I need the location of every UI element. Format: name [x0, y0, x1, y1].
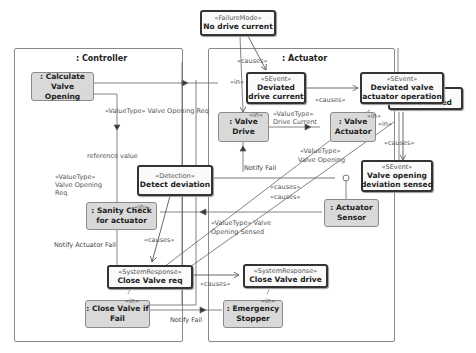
in-label-sanity: «in» — [134, 203, 148, 211]
event-stereotype: «SEvent» — [387, 75, 418, 83]
event-name: Close Valve drive — [249, 275, 322, 285]
event-stereotype: «SystemResponse» — [254, 267, 317, 275]
event-name-line2: drive current — [248, 92, 303, 102]
event-stereotype: «FailureMode» — [214, 14, 261, 22]
opening-sensed-label-1: «ValueType» Valve — [211, 219, 271, 227]
controller-title: : Controller — [76, 54, 127, 63]
causes-label-6: «causes» — [144, 236, 174, 244]
in-label-close-valve: «in» — [125, 297, 139, 305]
actuator-sensor-part[interactable]: : Actuator Sensor — [324, 199, 379, 227]
actuator-title: : Actuator — [282, 54, 327, 63]
valve-opening-name-label: Valve Opening — [298, 156, 345, 164]
causes-label-1: «causes» — [237, 57, 267, 65]
deviated-valve-actuator-operation-event[interactable]: «SEvent» Deviated valve actuator operati… — [360, 72, 444, 104]
causes-label-7: «causes» — [200, 280, 230, 288]
notify-fail-label: Notify Fail — [244, 164, 276, 172]
in-label-emergency: «in» — [261, 297, 275, 305]
close-valve-req-event[interactable]: «SystemResponse» Close Valve req — [107, 265, 193, 289]
event-name-line2: actuator operation — [362, 92, 442, 102]
close-valve-if-fail-part[interactable]: : Close Valve if Fail — [85, 300, 150, 328]
reference-value-label: reference value — [87, 152, 138, 160]
valve-opening-req-name2: Req — [55, 189, 67, 197]
drive-current-label-2: Drive Current — [273, 118, 317, 126]
drive-current-label-1: «ValueType» — [273, 110, 313, 118]
in-label-valve-drive: «in» — [249, 111, 263, 119]
causes-label-3: «causes» — [384, 139, 414, 147]
deviated-drive-current-event[interactable]: «SEvent» Deviated drive current — [246, 72, 306, 104]
event-name-line1: Valve opening — [367, 171, 427, 181]
event-name: Close Valve req — [117, 276, 182, 286]
valve-opening-deviation-sensed-event[interactable]: «SEvent» Valve opening deviation sensed — [361, 160, 433, 192]
event-name: No drive current — [203, 22, 272, 32]
valve-opening-req-type: «ValueType» — [55, 173, 95, 181]
event-name: Detect deviation — [140, 180, 210, 190]
in-label-1: «in» — [230, 78, 244, 86]
event-stereotype: «SEvent» — [261, 75, 292, 83]
notify-fail-bottom-label: Notify Fail — [170, 316, 202, 324]
in-label-valve-actuator: «in» — [367, 112, 381, 120]
in-label-valve-actuator-2: «in» — [378, 120, 392, 128]
event-name-line1: Deviated — [257, 83, 295, 93]
event-stereotype: «SEvent» — [382, 163, 413, 171]
event-name-line1: Deviated valve — [371, 83, 434, 93]
event-stereotype: «SystemResponse» — [118, 268, 181, 276]
causes-label-5: «causes» — [270, 193, 300, 201]
event-stereotype: «Detection» — [155, 172, 194, 180]
no-drive-current-event[interactable]: «FailureMode» No drive current — [200, 10, 276, 36]
causes-label-4: «causes» — [270, 183, 300, 191]
close-valve-drive-event[interactable]: «SystemResponse» Close Valve drive — [243, 264, 328, 288]
valve-opening-req-name1: Valve Opening — [55, 181, 102, 189]
valve-opening-type-label: «ValueType» — [300, 147, 340, 155]
calculate-valve-opening-part[interactable]: : Calculate Valve Opening — [31, 72, 94, 101]
valve-opening-req-label: «ValueType» Valve Opening Req — [105, 107, 209, 115]
detect-deviation-event[interactable]: «Detection» Detect deviation — [137, 165, 213, 196]
event-name-line2: deviation sensed — [361, 180, 433, 190]
opening-sensed-label-2: Opening Sensed — [211, 228, 264, 236]
notify-actuator-fail-label: Notify Actuator Fail — [54, 241, 116, 249]
causes-label-2: «causes» — [315, 96, 345, 104]
